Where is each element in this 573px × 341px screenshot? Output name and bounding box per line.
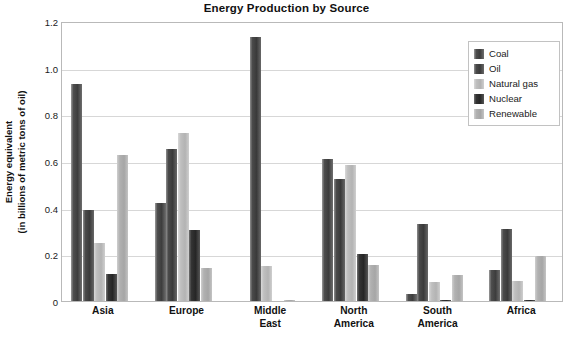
x-axis-tick-label: Europe bbox=[145, 305, 229, 318]
y-axis-ticks: 1.21.00.80.60.40.20 bbox=[28, 0, 58, 341]
legend-item-nuclear[interactable]: Nuclear bbox=[474, 91, 555, 106]
bar-group bbox=[238, 23, 296, 301]
bar-gas-north-america[interactable] bbox=[345, 165, 356, 302]
legend-label: Nuclear bbox=[489, 93, 522, 104]
legend-label: Coal bbox=[489, 48, 509, 59]
y-axis-tick-label: 0.2 bbox=[30, 250, 58, 261]
gridline bbox=[62, 256, 562, 257]
bar-nuclear-africa[interactable] bbox=[524, 300, 535, 301]
y-axis-title: Energy equivalent (in billions of metric… bbox=[2, 22, 28, 302]
bar-renew-middle-east[interactable] bbox=[284, 300, 295, 301]
bar-oil-europe[interactable] bbox=[166, 149, 177, 301]
y-axis-tick-label: 1.2 bbox=[30, 17, 58, 28]
bar-nuclear-south-america[interactable] bbox=[440, 300, 451, 301]
bar-renew-south-america[interactable] bbox=[452, 275, 463, 301]
bar-gas-asia[interactable] bbox=[94, 243, 105, 301]
bar-coal-africa[interactable] bbox=[489, 270, 500, 302]
bar-renew-africa[interactable] bbox=[535, 256, 546, 302]
bar-oil-asia[interactable] bbox=[83, 210, 94, 301]
x-axis-tick-label: North America bbox=[312, 305, 396, 330]
bar-coal-north-america[interactable] bbox=[322, 159, 333, 301]
bar-gas-middle-east[interactable] bbox=[261, 266, 272, 301]
bar-group bbox=[406, 23, 464, 301]
x-axis-tick-label: South America bbox=[396, 305, 480, 330]
y-axis-title-line1: Energy equivalent bbox=[3, 121, 14, 204]
y-axis-tick-label: 0.8 bbox=[30, 110, 58, 121]
legend-item-gas[interactable]: Natural gas bbox=[474, 76, 555, 91]
legend-swatch-oil-icon bbox=[474, 64, 484, 74]
legend-swatch-gas-icon bbox=[474, 79, 484, 89]
legend-item-coal[interactable]: Coal bbox=[474, 46, 555, 61]
bar-nuclear-europe[interactable] bbox=[189, 230, 200, 301]
x-axis-tick-label: Africa bbox=[479, 305, 563, 318]
legend-item-renew[interactable]: Renewable bbox=[474, 106, 555, 121]
legend-label: Natural gas bbox=[489, 78, 538, 89]
legend-swatch-nuclear-icon bbox=[474, 94, 484, 104]
bar-oil-middle-east[interactable] bbox=[250, 37, 261, 301]
bar-gas-south-america[interactable] bbox=[429, 282, 440, 301]
bar-coal-europe[interactable] bbox=[155, 203, 166, 301]
x-axis-ticks: AsiaEuropeMiddle EastNorth AmericaSouth … bbox=[61, 305, 563, 341]
bar-gas-europe[interactable] bbox=[178, 133, 189, 301]
bar-group bbox=[322, 23, 380, 301]
x-axis-tick-label: Asia bbox=[61, 305, 145, 318]
bar-group bbox=[155, 23, 213, 301]
bar-nuclear-asia[interactable] bbox=[106, 274, 117, 301]
legend-label: Renewable bbox=[489, 108, 537, 119]
chart-title: Energy Production by Source bbox=[0, 2, 573, 14]
bar-oil-africa[interactable] bbox=[501, 229, 512, 301]
bar-coal-asia[interactable] bbox=[71, 84, 82, 301]
bar-oil-north-america[interactable] bbox=[334, 179, 345, 302]
y-axis-tick-label: 1.0 bbox=[30, 63, 58, 74]
bar-renew-north-america[interactable] bbox=[368, 265, 379, 301]
chart-legend: CoalOilNatural gasNuclearRenewable bbox=[468, 41, 560, 126]
y-axis-tick-label: 0.4 bbox=[30, 203, 58, 214]
legend-item-oil[interactable]: Oil bbox=[474, 61, 555, 76]
y-axis-title-line2: (in billions of metric tons of oil) bbox=[15, 91, 26, 234]
legend-swatch-renew-icon bbox=[474, 109, 484, 119]
gridline bbox=[62, 210, 562, 211]
bar-gas-africa[interactable] bbox=[512, 281, 523, 301]
bar-nuclear-north-america[interactable] bbox=[357, 254, 368, 301]
gridline bbox=[62, 163, 562, 164]
bar-chart: Energy Production by Source Energy equiv… bbox=[0, 0, 573, 341]
bar-oil-south-america[interactable] bbox=[417, 224, 428, 301]
legend-swatch-coal-icon bbox=[474, 49, 484, 59]
y-axis-tick-label: 0.6 bbox=[30, 157, 58, 168]
y-axis-tick-label: 0 bbox=[30, 297, 58, 308]
bar-renew-asia[interactable] bbox=[117, 155, 128, 301]
bar-group bbox=[71, 23, 129, 301]
legend-label: Oil bbox=[489, 63, 501, 74]
bar-renew-europe[interactable] bbox=[201, 268, 212, 301]
bar-coal-south-america[interactable] bbox=[406, 294, 417, 301]
x-axis-tick-label: Middle East bbox=[228, 305, 312, 330]
